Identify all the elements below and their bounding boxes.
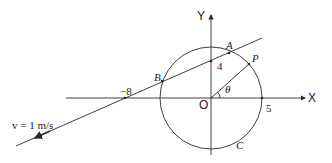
label-p: P <box>251 52 259 64</box>
label-a: A <box>225 39 233 51</box>
point-p <box>248 63 251 66</box>
label-velocity: v = 1 m/s <box>12 119 53 131</box>
y-axis-label: Y <box>197 9 205 23</box>
geometry-diagram: X Y A B P θ O 4 −8 5 C v = 1 m/s <box>0 0 332 163</box>
label-origin: O <box>199 98 208 112</box>
label-theta: θ <box>225 83 231 95</box>
point-b <box>161 80 164 83</box>
angle-arc <box>218 92 220 98</box>
point-five <box>261 97 264 100</box>
label-four: 4 <box>217 60 223 72</box>
point-a <box>228 52 231 55</box>
point-y-intercept <box>210 60 213 63</box>
label-b: B <box>154 71 161 83</box>
velocity-arrow <box>35 131 50 138</box>
x-axis-label: X <box>308 91 316 105</box>
label-five: 5 <box>266 102 272 114</box>
point-x-intercept <box>124 97 127 100</box>
label-minus-eight: −8 <box>120 85 132 97</box>
label-c: C <box>236 139 244 151</box>
